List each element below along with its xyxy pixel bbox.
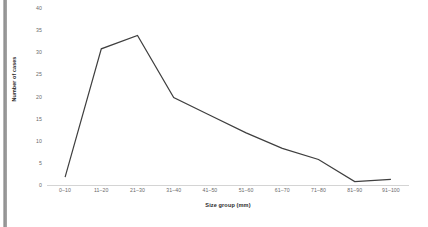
y-axis-tick-label: 5 <box>22 161 42 166</box>
x-axis-tick-label: 21–30 <box>130 188 145 193</box>
x-axis-tick-label: 91–100 <box>382 188 400 193</box>
y-axis-tick-label: 20 <box>22 95 42 100</box>
y-axis-tick-label: 30 <box>22 51 42 56</box>
series-line-number-of-cases <box>65 36 391 182</box>
line-chart-figure: 0510152025303540 Number of cases 0–1011–… <box>0 0 428 227</box>
x-axis-tick-label: 51–60 <box>239 188 254 193</box>
y-axis-tick-labels: 0510152025303540 <box>22 0 42 227</box>
x-axis-tick-label: 31–40 <box>166 188 181 193</box>
y-axis-tick-label: 15 <box>22 117 42 122</box>
y-axis-tick-label: 35 <box>22 29 42 34</box>
series-line-svg <box>47 9 409 186</box>
y-axis-tick-label: 25 <box>22 73 42 78</box>
x-axis-tick-label: 0–10 <box>59 188 71 193</box>
x-axis-tick-labels: 0–1011–2021–3031–4041–5051–6061–7071–808… <box>47 188 409 198</box>
x-axis-tick-label: 81–90 <box>347 188 362 193</box>
x-axis-title: Size group (mm) <box>47 202 409 208</box>
x-axis-tick-label: 41–50 <box>202 188 217 193</box>
y-axis-tick-label: 0 <box>22 183 42 188</box>
plot-area <box>47 9 409 186</box>
x-axis-tick-label: 61–70 <box>275 188 290 193</box>
y-axis-tick-label: 10 <box>22 139 42 144</box>
figure-page: 0510152025303540 Number of cases 0–1011–… <box>0 0 428 227</box>
y-axis-tick-label: 40 <box>22 6 42 11</box>
x-axis-line <box>47 185 409 186</box>
x-axis-tick-label: 11–20 <box>94 188 109 193</box>
x-axis-tick-label: 71–80 <box>311 188 326 193</box>
y-axis-title: Number of cases <box>11 39 17 119</box>
